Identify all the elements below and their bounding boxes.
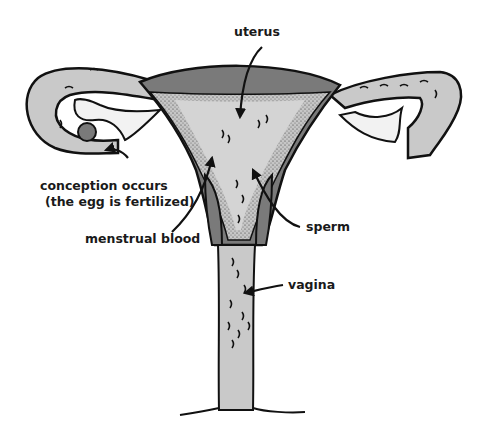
sperm-label: sperm	[306, 219, 350, 234]
fertilized-egg	[78, 123, 96, 141]
uterus-label: uterus	[234, 24, 280, 39]
conception-label-line2: (the egg is fertilized)	[45, 194, 195, 209]
menstrual-blood-label: menstrual blood	[85, 231, 200, 246]
conception-label-line1: conception occurs	[40, 178, 168, 193]
uterus-diagram: uterus conception occurs (the egg is fer…	[0, 0, 486, 443]
right-ovary	[340, 108, 402, 142]
anatomy-illustration	[0, 0, 486, 443]
vagina-label: vagina	[288, 277, 335, 292]
